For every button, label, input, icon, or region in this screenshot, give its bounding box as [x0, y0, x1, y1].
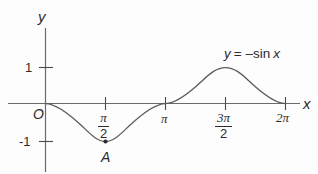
fraction-numerator: π: [98, 111, 109, 125]
sine-graph-figure: y x O 1 -1 π 2 π 3π 2 2π A y= –sinx: [0, 0, 318, 174]
equation-y-variable: y: [224, 46, 231, 61]
x-tick-label-pi: π: [161, 112, 168, 125]
y-tick-label-minus-1: -1: [19, 135, 31, 148]
fraction-denominator: 2: [98, 127, 109, 141]
x-tick-label-2pi: 2π: [276, 111, 289, 124]
x-tick-label-pi-over-2: π 2: [98, 111, 109, 140]
plot-canvas: [0, 0, 318, 174]
y-axis-label: y: [38, 9, 46, 24]
equation-x-variable: x: [273, 46, 280, 61]
y-tick-label-1: 1: [25, 61, 32, 74]
curve-equation-label: y= –sinx: [224, 47, 280, 61]
equation-operator: = –sin: [234, 46, 270, 61]
x-tick-label-3pi-over-2: 3π 2: [215, 111, 232, 140]
point-a-label: A: [101, 150, 110, 164]
origin-label: O: [33, 107, 44, 121]
fraction-numerator: 3π: [215, 111, 232, 125]
fraction-denominator: 2: [215, 127, 232, 141]
x-axis-label: x: [303, 96, 311, 111]
